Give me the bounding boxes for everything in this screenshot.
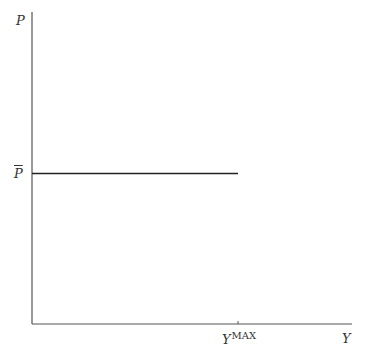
x-tick-label-sup: MAX bbox=[232, 330, 257, 341]
diagram: P P YMAX Y bbox=[0, 0, 370, 350]
y-axis-label: P bbox=[16, 14, 25, 27]
price-level-label: P bbox=[14, 167, 23, 180]
x-tick-label-ymax: YMAX bbox=[222, 331, 256, 346]
x-axis-label: Y bbox=[342, 332, 351, 345]
x-tick-label-base: Y bbox=[222, 332, 231, 347]
diagram-canvas bbox=[0, 0, 370, 350]
